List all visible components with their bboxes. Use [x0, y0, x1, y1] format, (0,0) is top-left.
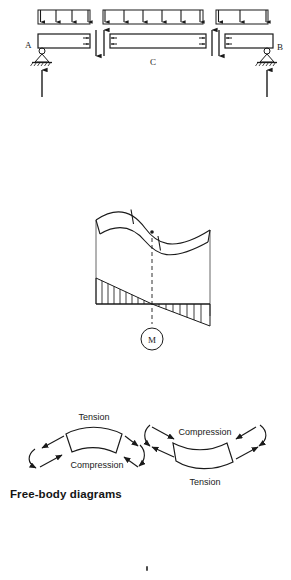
- figure-canvas: A B C: [0, 0, 291, 580]
- boundary-lines: [96, 220, 210, 316]
- beam-segment-left: [38, 30, 96, 56]
- moment-label: M: [148, 335, 156, 345]
- beam-segment-right: [219, 30, 273, 56]
- fbd-hogging: Tension Compression: [29, 412, 144, 470]
- moment-label-badge: M: [141, 328, 163, 350]
- support-label-b: B: [277, 42, 283, 52]
- point-label-c: C: [150, 57, 156, 67]
- page-artifact-mark: [146, 566, 148, 571]
- sagging-top-label: Compression: [178, 427, 231, 437]
- inflection-point-marker: [150, 230, 154, 234]
- support-b: [256, 48, 278, 97]
- sagging-bottom-label: Tension: [189, 477, 220, 487]
- figure-caption: Free-body diagrams: [10, 488, 122, 500]
- hogging-bottom-label: Compression: [70, 460, 123, 470]
- support-label-a: A: [25, 40, 32, 50]
- support-a: [31, 48, 53, 97]
- moment-diagram: M: [0, 200, 291, 365]
- beam-segment-middle: [104, 30, 212, 56]
- moment-area-left: [96, 278, 152, 304]
- udl-block-middle: [103, 10, 203, 24]
- hogging-top-label: Tension: [78, 412, 109, 422]
- udl-block-left: [38, 10, 90, 24]
- sagging-segment-body: [173, 443, 233, 469]
- free-body-diagrams: Tension Compression Compression Tension: [0, 405, 291, 495]
- beam-diagram: A B C: [0, 0, 291, 105]
- fbd-sagging: Compression Tension: [145, 425, 266, 487]
- moment-area-right: [152, 304, 210, 326]
- hogging-segment-body: [66, 427, 122, 453]
- udl-block-right: [216, 10, 268, 24]
